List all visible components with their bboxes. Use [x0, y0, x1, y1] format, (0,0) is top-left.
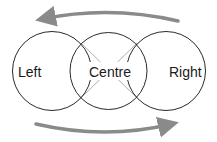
right-label: Right — [169, 64, 202, 80]
bottom-arrow — [36, 124, 172, 132]
left-label: Left — [18, 64, 41, 80]
three-circle-diagram: Left Centre Right — [0, 0, 217, 142]
centre-label: Centre — [89, 64, 131, 80]
top-arrow — [42, 12, 178, 21]
